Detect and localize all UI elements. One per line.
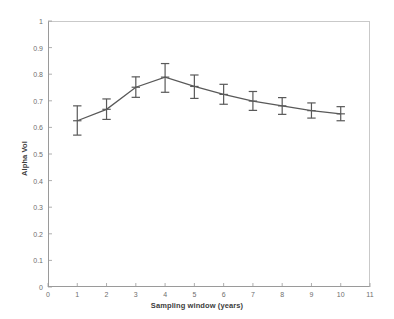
x-tick-label: 4 xyxy=(155,291,175,298)
y-tick-label: 1 xyxy=(19,18,43,25)
y-tick-label: 0.2 xyxy=(19,230,43,237)
x-tick-label: 6 xyxy=(214,291,234,298)
x-axis-ticks xyxy=(48,283,370,287)
x-tick-label: 1 xyxy=(67,291,87,298)
x-tick-label: 7 xyxy=(243,291,263,298)
y-tick-label: 0.3 xyxy=(19,204,43,211)
x-tick-label: 3 xyxy=(126,291,146,298)
y-tick-label: 0.7 xyxy=(19,97,43,104)
x-tick-label: 8 xyxy=(272,291,292,298)
chart-overlay xyxy=(0,0,394,319)
x-axis-title: Sampling window (years) xyxy=(0,301,394,310)
y-tick-label: 0.1 xyxy=(19,257,43,264)
data-series-errorbar-line xyxy=(73,64,345,136)
y-tick-label: 0.9 xyxy=(19,44,43,51)
series-line xyxy=(77,77,340,121)
x-tick-label: 2 xyxy=(97,291,117,298)
y-tick-label: 0.8 xyxy=(19,71,43,78)
x-tick-label: 11 xyxy=(360,291,380,298)
y-axis-ticks xyxy=(48,21,52,287)
x-tick-label: 5 xyxy=(184,291,204,298)
x-tick-label: 9 xyxy=(301,291,321,298)
y-tick-label: 0 xyxy=(19,284,43,291)
x-tick-label: 0 xyxy=(38,291,58,298)
x-tick-label: 10 xyxy=(331,291,351,298)
figure-canvas: 00.10.20.30.40.50.60.70.80.91 0123456789… xyxy=(0,0,394,319)
y-axis-title: Alpha Vol xyxy=(20,119,29,199)
